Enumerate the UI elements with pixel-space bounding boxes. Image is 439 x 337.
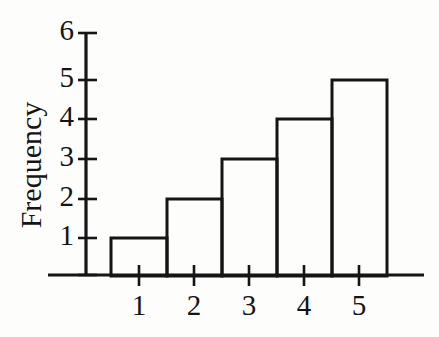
bar-3 xyxy=(222,159,277,276)
x-tick-label-2: 2 xyxy=(187,289,202,321)
bar-group xyxy=(111,80,387,276)
y-tick-label-2: 2 xyxy=(60,180,75,212)
y-tick-label-3: 3 xyxy=(60,140,75,172)
y-axis-label: Frequency xyxy=(14,102,47,229)
x-tick-label-1: 1 xyxy=(132,289,147,321)
histogram-chart: Frequency 6 5 4 3 2 1 xyxy=(0,0,439,337)
x-axis-tick-labels: 1 2 3 4 5 xyxy=(132,289,367,321)
chart-canvas: Frequency 6 5 4 3 2 1 xyxy=(0,0,439,337)
x-tick-label-5: 5 xyxy=(352,289,367,321)
x-tick-label-4: 4 xyxy=(297,289,312,321)
y-tick-label-4: 4 xyxy=(60,100,75,132)
bar-2 xyxy=(167,199,222,276)
bar-5 xyxy=(332,80,387,276)
y-tick-label-1: 1 xyxy=(60,219,75,251)
y-tick-label-5: 5 xyxy=(60,61,75,93)
bar-4 xyxy=(277,119,332,276)
x-tick-label-3: 3 xyxy=(242,289,257,321)
y-axis-tick-labels: 6 5 4 3 2 1 xyxy=(60,14,75,251)
y-tick-label-6: 6 xyxy=(60,14,75,46)
y-axis-label-text: Frequency xyxy=(14,102,47,229)
